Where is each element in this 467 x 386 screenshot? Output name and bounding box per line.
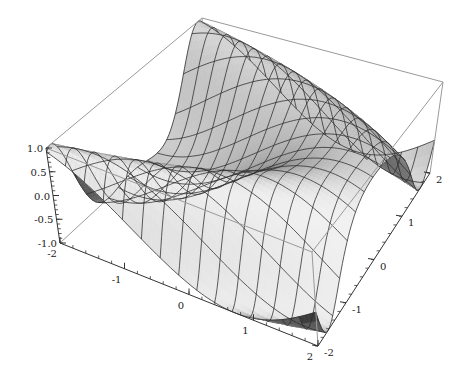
plot-canvas: -1.0-0.50.00.51.0 -2-1012 -2-1012: [0, 0, 467, 386]
y-tick-label: 2: [436, 174, 442, 185]
z-tick-label: 0.0: [34, 191, 50, 202]
surface-mesh: [47, 21, 435, 333]
y-tick-label: 0: [380, 261, 386, 272]
z-tick-label: 0.5: [31, 167, 47, 178]
y-tick-label: 1: [408, 217, 414, 228]
y-tick-label: -1: [352, 304, 362, 315]
x-tick-label: 2: [307, 351, 313, 362]
x-tick-label: -2: [47, 248, 57, 259]
x-tick-label: -1: [112, 274, 122, 285]
z-tick-label: 1.0: [27, 143, 43, 154]
x-tick-label: 1: [242, 325, 248, 336]
y-tick-label: -2: [324, 347, 334, 358]
z-tick-label: -0.5: [34, 214, 53, 225]
surface-plot-3d: -1.0-0.50.00.51.0 -2-1012 -2-1012: [0, 0, 467, 386]
x-tick-label: 0: [178, 300, 184, 311]
